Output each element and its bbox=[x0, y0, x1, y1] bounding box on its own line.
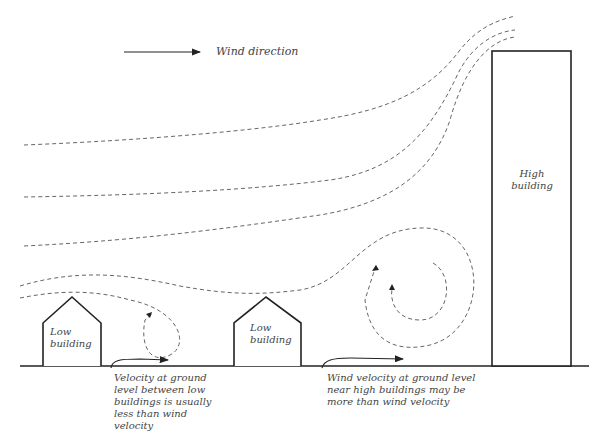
building-label-line: building bbox=[250, 334, 292, 346]
legend-label: Wind direction bbox=[216, 46, 298, 58]
wind-flow-diagram bbox=[0, 0, 589, 441]
building-label: Low building bbox=[250, 322, 292, 346]
annotation-high: Wind velocity at ground level near high … bbox=[327, 372, 475, 408]
annotation-low: Velocity at ground level between low bui… bbox=[114, 372, 212, 432]
annotation-line: more than wind velocity bbox=[327, 396, 475, 408]
annotation-line: buildings is usually bbox=[114, 396, 212, 408]
streamline-eddy-high-inner bbox=[392, 263, 447, 320]
building-label-line: building bbox=[505, 180, 559, 192]
building-label: Low building bbox=[50, 326, 92, 350]
building-label-line: High bbox=[505, 168, 559, 180]
annotation-line: level between low bbox=[114, 384, 212, 396]
annotation-line: less than wind bbox=[114, 408, 212, 420]
building-label-line: Low bbox=[250, 322, 292, 334]
building-label-line: building bbox=[50, 338, 92, 350]
annotation-line: Wind velocity at ground level bbox=[327, 372, 475, 384]
annotation-line: velocity bbox=[114, 420, 212, 432]
annotation-line: near high buildings may be bbox=[327, 384, 475, 396]
high-building bbox=[492, 51, 571, 366]
annotation-line: Velocity at ground bbox=[114, 372, 212, 384]
building-label: High building bbox=[505, 168, 559, 192]
building-label-line: Low bbox=[50, 326, 92, 338]
streamline bbox=[24, 16, 515, 145]
